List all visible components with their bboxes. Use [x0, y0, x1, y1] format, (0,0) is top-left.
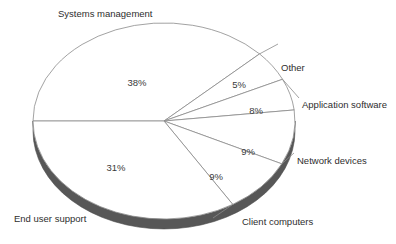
pie-value-label-application-software: 8% — [249, 105, 263, 116]
pie-category-label-end-user-support: End user support — [14, 213, 87, 224]
pie-slices — [33, 23, 295, 219]
pie-value-label-other: 5% — [232, 79, 246, 90]
pie-value-label-systems-management: 38% — [127, 77, 147, 88]
pie-value-label-client-computers: 9% — [209, 171, 223, 182]
pie-chart-figure: 38% 5% 8% 9% 9% 31% Systems management O… — [0, 0, 396, 244]
leader-line-other — [260, 44, 278, 54]
pie-chart-svg: 38% 5% 8% 9% 9% 31% Systems management O… — [0, 0, 396, 244]
pie-category-label-systems-management: Systems management — [58, 8, 153, 19]
pie-category-label-other: Other — [281, 62, 305, 73]
pie-value-label-network-devices: 9% — [241, 146, 255, 157]
pie-value-label-end-user-support: 31% — [106, 162, 126, 173]
pie-category-label-network-devices: Network devices — [297, 155, 367, 166]
pie-category-label-application-software: Application software — [302, 99, 387, 110]
pie-category-label-client-computers: Client computers — [242, 216, 314, 227]
